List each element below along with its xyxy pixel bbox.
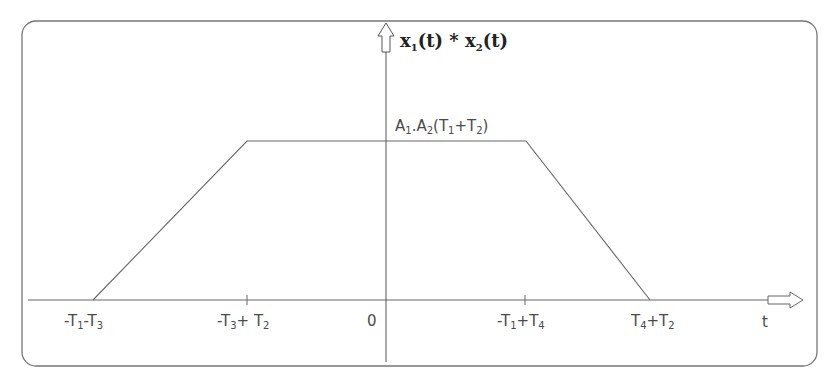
origin-label: 0 (367, 312, 377, 330)
tick-label: -T3+ T2 (217, 312, 269, 331)
tick-label: -T1+T4 (497, 312, 545, 331)
tick-label: T4+T2 (630, 312, 675, 331)
t-axis-arrow-icon (768, 292, 803, 308)
tick-label: -T1-T3 (64, 312, 103, 331)
y-axis-label: x1(t) * x2(t) (400, 30, 508, 53)
convolution-diagram: x1(t) * x2(t) A1.A2(T1+T2) -T1-T3 -T3+ T… (0, 0, 833, 387)
y-axis-arrow-icon (378, 23, 394, 52)
trapezoid-signal (93, 141, 650, 300)
peak-amplitude-label: A1.A2(T1+T2) (395, 117, 488, 136)
diagram-frame (22, 21, 817, 366)
t-axis-label: t (762, 313, 768, 331)
